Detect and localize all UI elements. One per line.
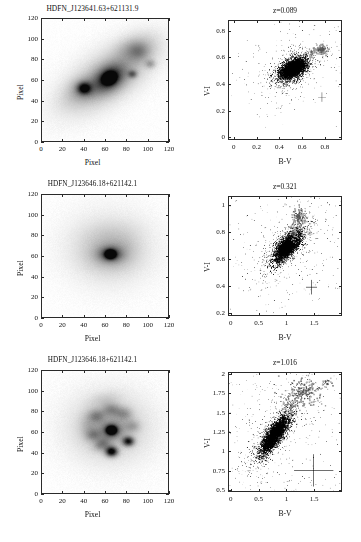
scatter-box — [228, 196, 342, 316]
panel-row: HDFN_J123641.63+621131.9 Pixel Pixel 020… — [0, 0, 361, 181]
axis-tick — [105, 18, 106, 21]
axis-tick-label: 60 — [102, 321, 109, 329]
axis-tick — [105, 491, 106, 494]
axis-tick — [166, 370, 169, 371]
axis-tick-label: 1.5 — [310, 495, 319, 503]
axis-tick — [339, 374, 342, 375]
axis-tick — [339, 259, 342, 260]
axis-tick — [148, 139, 149, 142]
axis-tick — [166, 80, 169, 81]
axis-tick — [148, 315, 149, 318]
axis-tick — [228, 205, 231, 206]
redshift-label: z=0.089 — [228, 6, 342, 15]
axis-tick-label: 0.2 — [252, 143, 261, 151]
axis-tick-label: 0.2 — [202, 107, 225, 115]
axis-tick — [126, 194, 127, 197]
axis-tick — [234, 20, 235, 23]
axis-tick — [166, 39, 169, 40]
axis-tick-label: 80 — [15, 55, 38, 63]
image-xlabel: Pixel — [0, 510, 185, 519]
galaxy-title: HDFN_J123641.63+621131.9 — [0, 4, 185, 13]
axis-tick — [314, 196, 315, 199]
axis-tick — [166, 432, 169, 433]
axis-tick — [314, 313, 315, 316]
axis-tick — [325, 137, 326, 140]
axis-tick-label: 60 — [15, 252, 38, 260]
axis-tick-label: 0.5 — [254, 495, 263, 503]
axis-tick — [286, 196, 287, 199]
axis-tick — [41, 39, 44, 40]
axis-tick-label: 100 — [15, 35, 38, 43]
axis-tick — [41, 453, 44, 454]
axis-tick-label: 60 — [15, 76, 38, 84]
axis-tick-label: 2 — [202, 370, 225, 378]
axis-tick — [166, 235, 169, 236]
axis-tick — [169, 370, 170, 373]
axis-tick — [84, 18, 85, 21]
axis-tick — [41, 391, 44, 392]
axis-tick-label: 60 — [15, 428, 38, 436]
axis-tick — [41, 194, 44, 195]
axis-tick — [228, 286, 231, 287]
axis-tick — [286, 372, 287, 375]
figure-panel-grid: HDFN_J123641.63+621131.9 Pixel Pixel 020… — [0, 0, 361, 542]
axis-tick — [339, 313, 342, 314]
axis-tick-label: 80 — [123, 321, 130, 329]
axis-tick — [257, 137, 258, 140]
axis-tick-label: 40 — [80, 145, 87, 153]
axis-tick — [339, 137, 342, 138]
axis-tick-label: 0 — [229, 495, 233, 503]
scatter-points — [229, 197, 341, 315]
axis-tick — [339, 286, 342, 287]
axis-tick — [41, 494, 44, 495]
axis-tick-label: 0.6 — [298, 143, 307, 151]
axis-tick-label: 60 — [102, 497, 109, 505]
axis-tick — [228, 432, 231, 433]
axis-tick — [41, 121, 44, 122]
axis-tick-label: 100 — [15, 211, 38, 219]
axis-tick — [339, 84, 342, 85]
redshift-label: z=0.321 — [228, 182, 342, 191]
axis-tick — [339, 57, 342, 58]
axis-tick — [339, 432, 342, 433]
axis-tick — [166, 494, 169, 495]
axis-tick — [228, 393, 231, 394]
axis-tick-label: 100 — [15, 387, 38, 395]
axis-tick-label: 80 — [123, 497, 130, 505]
galaxy-raster — [42, 371, 168, 493]
axis-tick — [228, 374, 231, 375]
axis-tick-label: 0 — [15, 490, 38, 498]
axis-tick-label: 1.75 — [202, 389, 225, 397]
axis-tick-label: 0.2 — [202, 309, 225, 317]
axis-tick — [169, 18, 170, 21]
axis-tick — [41, 142, 44, 143]
axis-tick — [279, 20, 280, 23]
axis-tick — [314, 489, 315, 492]
axis-tick — [166, 18, 169, 19]
axis-tick — [84, 315, 85, 318]
axis-tick — [314, 372, 315, 375]
axis-tick-label: 1 — [285, 319, 289, 327]
axis-tick — [84, 370, 85, 373]
axis-tick-label: 20 — [59, 145, 66, 153]
galaxy-image-panel: HDFN_J123641.63+621131.9 Pixel Pixel 020… — [0, 0, 185, 181]
axis-tick — [228, 490, 231, 491]
axis-tick — [257, 20, 258, 23]
axis-tick — [339, 205, 342, 206]
axis-tick — [339, 451, 342, 452]
panel-row: HDFN_J123646.18+621142.1 Pixel Pixel 020… — [0, 352, 361, 533]
axis-tick — [339, 490, 342, 491]
scatter-ylabel: V-I — [203, 262, 212, 272]
axis-tick — [286, 489, 287, 492]
axis-tick — [339, 232, 342, 233]
axis-tick — [339, 413, 342, 414]
axis-tick — [41, 370, 44, 371]
axis-tick — [166, 453, 169, 454]
axis-tick — [41, 235, 44, 236]
axis-tick — [166, 101, 169, 102]
scatter-points — [229, 373, 341, 491]
axis-tick — [41, 277, 44, 278]
axis-tick — [105, 194, 106, 197]
galaxy-title: HDFN_J123646.18+621142.1 — [0, 356, 185, 364]
axis-tick-label: 80 — [123, 145, 130, 153]
